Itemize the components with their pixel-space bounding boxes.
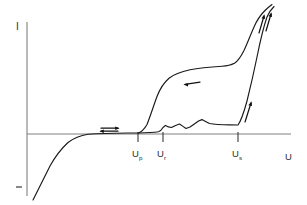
tick-label-up-sub: p (139, 154, 143, 161)
curve-lower-branch (33, 7, 274, 201)
tick-label-ur: U r (157, 148, 166, 161)
y-axis-label: I (16, 21, 19, 32)
upper-branch-left-arrow (183, 82, 200, 86)
iv-characteristic-figure: I U U p U r U s (0, 0, 307, 205)
tick-label-up-base: U (132, 148, 139, 159)
curve-upper-branch (138, 5, 272, 134)
tick-label-ur-sub: r (164, 154, 166, 161)
tick-label-us-base: U (232, 148, 239, 159)
tick-label-us: U s (232, 148, 242, 161)
tick-label-up: U p (132, 148, 143, 161)
tick-label-us-sub: s (239, 154, 242, 161)
bidirectional-arrows-annotation (99, 126, 119, 133)
plot-canvas: I U U p U r U s (0, 0, 307, 205)
x-axis-label: U (285, 151, 292, 162)
tick-label-ur-base: U (157, 148, 164, 159)
